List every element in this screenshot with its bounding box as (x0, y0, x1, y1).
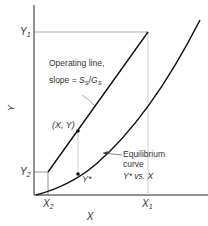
x-axis-title: X (86, 211, 94, 222)
equilibrium-curve-label: curve (123, 159, 144, 169)
operating-line-label: Operating line, (49, 58, 104, 68)
y-axis-title: Y (6, 104, 16, 111)
y2-label: Y2 (20, 166, 31, 178)
operating-line-pointer (82, 95, 95, 106)
point-xy-label: (X, Y) (52, 120, 75, 130)
point-ystar-label: Y* (82, 174, 92, 184)
equilibrium-curve (36, 20, 200, 195)
y1-label: Y1 (20, 26, 31, 38)
equilibrium-relation-label: Y* vs. X (123, 171, 154, 181)
x1-label: X1 (141, 198, 153, 210)
x2-label: X2 (42, 198, 54, 210)
slope-label: slope = SS/GS (49, 75, 102, 86)
operating-equilibrium-diagram: Y1 Y2 X2 X1 Y X Operating line, slope = … (0, 0, 208, 226)
equilibrium-label: Equilibrium (123, 149, 165, 159)
point-ystar (76, 172, 80, 176)
point-xy (76, 129, 80, 133)
